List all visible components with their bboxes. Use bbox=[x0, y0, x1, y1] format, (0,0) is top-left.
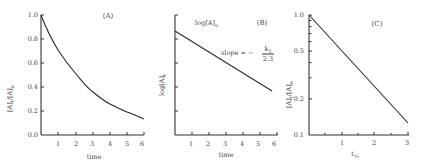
panel-a-x-label: time bbox=[87, 153, 102, 161]
panel-a-x-tick-labels: 1 2 3 4 5 6 bbox=[56, 140, 144, 148]
y-tick-label: 0.5 bbox=[294, 47, 304, 55]
panel-b: 1 2 3 4 5 6 time log[A]t log[A]o (B) slo… bbox=[158, 15, 278, 159]
slope-denominator: 2.3 bbox=[263, 55, 273, 63]
x-tick-label: 2 bbox=[206, 140, 210, 148]
x-tick-label: 1 bbox=[340, 139, 344, 147]
y-tick-label: 0.0 bbox=[28, 131, 38, 139]
panel-c-x-tick-labels: 1 2 3 bbox=[340, 139, 409, 147]
x-tick-label: 1 bbox=[189, 140, 193, 148]
y-tick-label: 0.6 bbox=[28, 59, 38, 67]
panel-c-y-label: [A]t/[A]o bbox=[285, 81, 294, 108]
panel-c-half-life-line bbox=[309, 15, 408, 123]
y-tick-label: 1.0 bbox=[294, 11, 304, 19]
panel-b-log-line bbox=[175, 31, 272, 91]
slope-numerator: k1 bbox=[264, 45, 271, 54]
panel-b-y-label: log[A]t bbox=[158, 74, 167, 96]
panel-b-x-label: time bbox=[219, 151, 234, 159]
y-tick-label: 0.8 bbox=[28, 35, 38, 43]
slope-label: slope = − bbox=[221, 49, 253, 57]
panel-c-y-tick-labels: 1.0 0.5 0.2 0.1 bbox=[294, 11, 304, 139]
panel-a-title: (A) bbox=[103, 12, 114, 20]
x-tick-label: 3 bbox=[405, 139, 409, 147]
figure-canvas: 1.0 0.8 0.6 0.4 0.2 0.0 1 2 3 4 5 6 time… bbox=[0, 0, 422, 164]
x-tick-label: 3 bbox=[90, 140, 94, 148]
y-tick-label: 0.1 bbox=[294, 131, 304, 139]
y-tick-label: 0.2 bbox=[28, 107, 38, 115]
y-tick-label: 0.2 bbox=[294, 95, 304, 103]
y-tick-label: 1.0 bbox=[28, 11, 38, 19]
y-tick-label: 0.4 bbox=[28, 83, 38, 91]
x-tick-label: 2 bbox=[74, 140, 78, 148]
x-tick-label: 6 bbox=[140, 140, 144, 148]
x-tick-label: 4 bbox=[108, 140, 112, 148]
x-tick-label: 5 bbox=[256, 140, 260, 148]
panel-b-title: (B) bbox=[257, 19, 268, 27]
panel-a: 1.0 0.8 0.6 0.4 0.2 0.0 1 2 3 4 5 6 time… bbox=[6, 11, 144, 161]
panel-a-y-tick-labels: 1.0 0.8 0.6 0.4 0.2 0.0 bbox=[28, 11, 38, 139]
x-tick-label: 4 bbox=[240, 140, 244, 148]
x-tick-label: 6 bbox=[272, 140, 276, 148]
panel-c-title: (C) bbox=[372, 20, 383, 28]
panel-b-x-tick-labels: 1 2 3 4 5 6 bbox=[189, 140, 276, 148]
x-tick-label: 1 bbox=[56, 140, 60, 148]
panel-a-decay-curve bbox=[41, 15, 144, 119]
panel-c: 1.0 0.5 0.2 0.1 1 2 3 t½ [A]t/[A]o (C) bbox=[285, 11, 409, 159]
x-tick-label: 2 bbox=[372, 139, 376, 147]
x-tick-label: 3 bbox=[223, 140, 227, 148]
x-tick-label: 5 bbox=[125, 140, 129, 148]
panel-b-intercept-label: log[A]o bbox=[195, 19, 218, 28]
panel-a-y-label: [A]t/[A]o bbox=[6, 85, 15, 112]
panel-b-slope-annotation: slope = − k1 2.3 bbox=[221, 45, 274, 63]
panel-c-x-label: t½ bbox=[351, 150, 359, 159]
